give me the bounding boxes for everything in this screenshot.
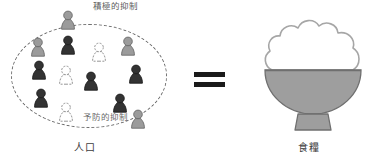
population-figure-gray	[30, 36, 46, 57]
population-figure-gray	[130, 108, 146, 129]
rice-bowl-icon	[258, 8, 368, 136]
diagram-canvas: 積極的抑制 予防的抑制 人口 食糧	[0, 0, 375, 164]
population-figure-dark	[60, 34, 76, 55]
population-figure-dark	[31, 59, 47, 80]
equals-bar-bottom	[194, 82, 225, 87]
population-figure-white	[58, 101, 74, 122]
population-figure-dark	[33, 87, 49, 108]
food-group: 食糧	[250, 0, 375, 164]
population-group: 積極的抑制 予防的抑制 人口	[0, 0, 188, 164]
equals-bar-top	[194, 72, 225, 77]
population-figure-dark	[83, 70, 99, 91]
population-figure-white	[58, 64, 74, 85]
label-food: 食糧	[298, 143, 320, 153]
rice-mound	[265, 21, 359, 70]
population-figure-dark	[128, 63, 144, 84]
bowl-foot	[295, 114, 331, 130]
equals-sign	[194, 70, 225, 91]
bowl-body	[265, 70, 361, 114]
population-figure-gray	[60, 9, 76, 30]
figure-layer	[0, 0, 188, 164]
population-figure-white	[91, 41, 107, 62]
population-figure-gray	[120, 35, 136, 56]
population-figure-dark	[112, 92, 128, 113]
